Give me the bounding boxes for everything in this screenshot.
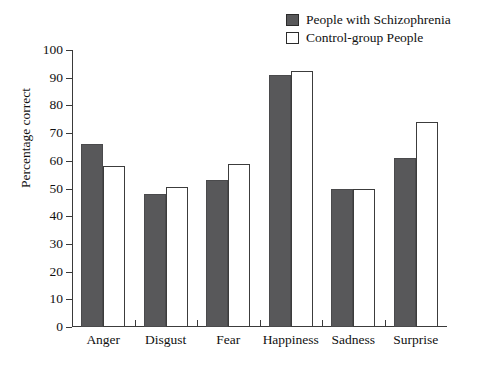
bar-group xyxy=(269,50,313,327)
legend-swatch-dark-icon xyxy=(286,14,299,26)
legend-label-schizophrenia: People with Schizophrenia xyxy=(306,13,451,26)
bar-group xyxy=(394,50,438,327)
y-tick-label: 80 xyxy=(50,99,64,113)
bar-series-container xyxy=(72,50,447,327)
bar xyxy=(353,189,375,328)
legend-swatch-light-icon xyxy=(286,32,299,44)
bar xyxy=(206,180,228,327)
x-category-label: Disgust xyxy=(145,333,186,347)
bar-group xyxy=(206,50,250,327)
bar xyxy=(228,164,250,327)
bar-group xyxy=(144,50,188,327)
y-tick-mark xyxy=(66,327,72,328)
bar-group xyxy=(331,50,375,327)
bar xyxy=(416,122,438,327)
x-category-label: Anger xyxy=(86,333,120,347)
plot-area: 0102030405060708090100 AngerDisgustFearH… xyxy=(72,50,447,327)
x-category-label: Fear xyxy=(216,333,240,347)
bar xyxy=(269,75,291,327)
bar-group xyxy=(81,50,125,327)
y-axis-title: Percentage correct xyxy=(18,88,34,188)
y-tick-label: 0 xyxy=(56,320,63,334)
x-category-label: Happiness xyxy=(263,333,319,347)
bar xyxy=(394,158,416,327)
bar xyxy=(331,189,353,328)
legend-item-schizophrenia: People with Schizophrenia xyxy=(286,12,451,27)
bar xyxy=(291,71,313,327)
y-tick-label: 10 xyxy=(50,293,64,307)
bar xyxy=(144,194,166,327)
y-tick-label: 30 xyxy=(50,237,64,251)
y-tick-label: 70 xyxy=(50,126,64,140)
y-tick-label: 90 xyxy=(50,71,64,85)
y-tick-label: 60 xyxy=(50,154,64,168)
y-tick-label: 100 xyxy=(43,43,63,57)
bar-chart: People with Schizophrenia Control-group … xyxy=(0,0,491,377)
x-category-label: Sadness xyxy=(332,333,376,347)
bar xyxy=(166,187,188,327)
chart-legend: People with Schizophrenia Control-group … xyxy=(286,12,451,45)
y-tick-label: 40 xyxy=(50,209,64,223)
bar xyxy=(81,144,103,327)
bar xyxy=(103,166,125,327)
x-category-label: Surprise xyxy=(393,333,438,347)
legend-label-control: Control-group People xyxy=(306,31,423,44)
y-tick-label: 20 xyxy=(50,265,64,279)
y-tick-label: 50 xyxy=(50,182,64,196)
legend-item-control: Control-group People xyxy=(286,30,451,45)
